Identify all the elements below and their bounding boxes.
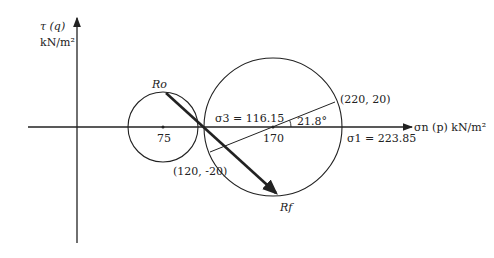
x-axis-label: σn (p) kN/m² <box>414 121 486 134</box>
point-lower-label: (120, -20) <box>173 165 227 178</box>
small-center-label: 75 <box>157 132 171 145</box>
sigma3-label: σ3 = 116.15 <box>215 112 284 125</box>
large-center-label: 170 <box>263 132 284 145</box>
y-axis-unit: kN/m² <box>40 36 75 49</box>
angle-arc <box>290 120 291 127</box>
angle-label: 21.8° <box>297 115 327 128</box>
y-axis-label: τ (q) <box>40 20 65 33</box>
rf-label: Rf <box>279 201 294 214</box>
point-upper-label: (220, 20) <box>340 93 391 106</box>
stress-path-arrow <box>166 93 276 193</box>
ro-label: Ro <box>151 78 167 91</box>
sigma1-label: σ1 = 223.85 <box>347 132 416 145</box>
small-center-dot <box>162 126 165 129</box>
mohr-circle-diagram: τ (q) kN/m² σn (p) kN/m² Ro 75 σ3 = 116.… <box>0 0 494 258</box>
